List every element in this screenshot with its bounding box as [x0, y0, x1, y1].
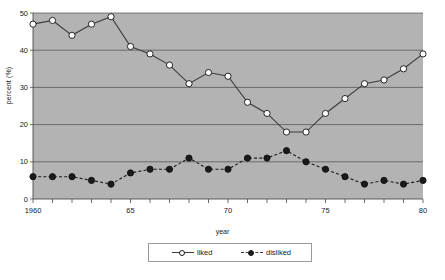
- x-axis-tick-label: 65: [126, 206, 134, 215]
- data-point-disliked: [283, 148, 289, 154]
- y-axis-tick-label: 40: [2, 46, 28, 55]
- data-point-disliked: [186, 155, 192, 161]
- data-point-liked: [303, 129, 309, 135]
- data-point-liked: [225, 73, 231, 79]
- data-point-disliked: [342, 174, 348, 180]
- data-point-liked: [49, 17, 55, 23]
- data-point-liked: [127, 43, 133, 49]
- x-axis-tick-label: 75: [321, 206, 329, 215]
- legend-item-disliked: disliked: [241, 248, 291, 257]
- data-point-liked: [205, 69, 211, 75]
- legend-marker-open-circle-icon: [172, 248, 194, 257]
- data-point-liked: [420, 51, 426, 57]
- data-point-liked: [147, 51, 153, 57]
- data-point-liked: [322, 110, 328, 116]
- data-point-disliked: [30, 174, 36, 180]
- data-point-liked: [88, 21, 94, 27]
- data-point-liked: [381, 77, 387, 83]
- data-point-disliked: [69, 174, 75, 180]
- data-point-disliked: [108, 181, 114, 187]
- x-axis-tick-label: 1960: [25, 206, 42, 215]
- data-point-disliked: [381, 177, 387, 183]
- data-point-liked: [166, 62, 172, 68]
- data-point-liked: [283, 129, 289, 135]
- data-point-liked: [244, 99, 250, 105]
- chart-legend: liked disliked: [148, 243, 312, 262]
- legend-item-liked: liked: [172, 248, 212, 257]
- data-point-liked: [361, 81, 367, 87]
- data-point-liked: [30, 21, 36, 27]
- data-point-disliked: [225, 166, 231, 172]
- data-point-liked: [69, 32, 75, 38]
- data-point-disliked: [400, 181, 406, 187]
- y-axis-tick-label: 10: [2, 157, 28, 166]
- data-point-disliked: [88, 177, 94, 183]
- x-axis-tick-label: 80: [419, 206, 427, 215]
- y-axis-tick-label: 20: [2, 120, 28, 129]
- data-point-disliked: [361, 181, 367, 187]
- data-point-disliked: [322, 166, 328, 172]
- data-point-disliked: [166, 166, 172, 172]
- chart-container: percent (%) year 01020304050 19606570758…: [0, 0, 445, 280]
- data-point-liked: [108, 14, 114, 20]
- data-point-liked: [400, 66, 406, 72]
- data-point-liked: [342, 95, 348, 101]
- data-point-disliked: [244, 155, 250, 161]
- data-point-disliked: [420, 177, 426, 183]
- data-point-disliked: [205, 166, 211, 172]
- y-axis-tick-label: 0: [2, 195, 28, 204]
- legend-label: liked: [197, 248, 212, 257]
- data-point-liked: [186, 81, 192, 87]
- data-point-disliked: [303, 159, 309, 165]
- data-point-liked: [264, 110, 270, 116]
- x-axis-tick-label: 70: [224, 206, 232, 215]
- y-axis-tick-label: 30: [2, 83, 28, 92]
- data-point-disliked: [127, 170, 133, 176]
- y-axis-tick-label: 50: [2, 9, 28, 18]
- legend-label: disliked: [266, 248, 291, 257]
- legend-marker-filled-circle-icon: [241, 248, 263, 257]
- data-point-disliked: [147, 166, 153, 172]
- chart-plot-area: [0, 0, 445, 280]
- x-axis-label: year: [0, 228, 445, 235]
- data-point-disliked: [49, 174, 55, 180]
- data-point-disliked: [264, 155, 270, 161]
